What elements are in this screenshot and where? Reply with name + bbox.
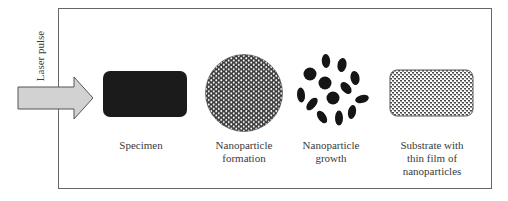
arrow-right-icon xyxy=(18,77,93,119)
formation-label: Nanoparticle formation xyxy=(198,139,290,165)
growth-label: Nanoparticle growth xyxy=(285,139,377,165)
particle-cluster-icon xyxy=(296,54,369,126)
label-line: nanoparticles xyxy=(386,165,478,178)
label-line: Specimen xyxy=(95,139,187,152)
specimen-block-icon xyxy=(103,71,187,117)
label-line: formation xyxy=(198,152,290,165)
label-line: thin film of xyxy=(386,152,478,165)
label-line: Nanoparticle xyxy=(285,139,377,152)
label-line: Substrate with xyxy=(386,139,478,152)
substrate-label: Substrate with thin film of nanoparticle… xyxy=(386,139,478,178)
label-line: Nanoparticle xyxy=(198,139,290,152)
dense-particle-circle-icon xyxy=(206,55,283,132)
laser-pulse-label: Laser pulse xyxy=(34,31,47,81)
label-line: growth xyxy=(285,152,377,165)
specimen-label: Specimen xyxy=(95,139,187,152)
thin-film-substrate-icon xyxy=(390,70,473,116)
